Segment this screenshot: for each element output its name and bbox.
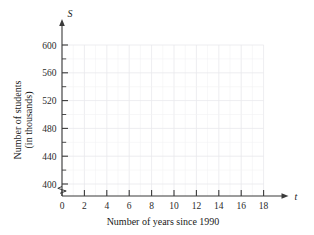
x-tick-label: 0 (60, 201, 65, 211)
x-tick-label: 12 (192, 201, 202, 211)
y-tick-label: 480 (42, 124, 57, 134)
x-tick-label: 2 (82, 201, 87, 211)
y-tick-label: 600 (42, 41, 57, 51)
y-axis-title: Number of students (in thousands) (12, 80, 35, 159)
x-tick-label: 6 (127, 201, 132, 211)
x-tick-label: 14 (214, 201, 224, 211)
x-tick-label: 4 (104, 201, 109, 211)
figure-background (0, 0, 314, 235)
y-axis-title-line1: Number of students (12, 80, 23, 159)
x-tick-label: 18 (259, 201, 269, 211)
chart-figure: 600 560 520 480 440 400 0 2 4 6 8 10 12 … (0, 0, 314, 235)
x-axis-title: Number of years since 1990 (107, 216, 220, 227)
y-axis-title-line2: (in thousands) (23, 92, 35, 149)
y-tick-label: 440 (42, 152, 57, 162)
x-tick-label: 16 (236, 201, 246, 211)
y-tick-label: 560 (42, 68, 57, 78)
x-tick-label: 10 (169, 201, 179, 211)
y-axis-variable-symbol: S (68, 8, 73, 19)
y-tick-label: 520 (42, 96, 57, 106)
x-tick-label: 8 (149, 201, 154, 211)
x-axis-variable-symbol: t (295, 191, 298, 202)
y-tick-label: 400 (42, 180, 57, 190)
coordinate-grid-plot: 600 560 520 480 440 400 0 2 4 6 8 10 12 … (0, 0, 314, 235)
